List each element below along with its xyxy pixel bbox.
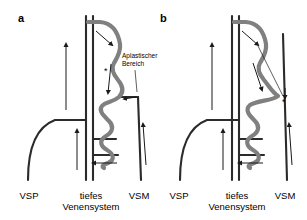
vsp-vessel-b — [180, 120, 238, 180]
callout-aplastischer-bereich: Aplastischer Bereich — [122, 52, 168, 67]
star-mark-b: * — [282, 98, 286, 107]
vsm-vessel-b — [283, 34, 287, 180]
arrow-reflux-down-a — [108, 64, 111, 93]
callout-leader-a — [135, 70, 137, 92]
venous-system-diagram: a b Aplastischer Bereich * * VSP tiefes … — [0, 0, 307, 220]
label-tiefes-venensystem-b: tiefes Venensystem — [204, 190, 270, 212]
panel-b-graphics — [180, 16, 292, 180]
label-tiefes-venensystem-a: tiefes Venensystem — [58, 190, 124, 212]
diagram-canvas — [0, 0, 307, 220]
vsm-vessel-a — [138, 97, 141, 180]
panel-label-a: a — [18, 13, 24, 24]
arrow-reflux-upper-b — [242, 31, 258, 45]
label-vsp-a: VSP — [6, 190, 52, 201]
label-vsm-b: VSM — [268, 190, 302, 201]
panel-a-graphics — [28, 16, 146, 180]
panel-label-b: b — [160, 13, 167, 24]
arrow-vsm-upflow-b — [289, 124, 292, 165]
label-vsp-b: VSP — [156, 190, 202, 201]
label-vsm-a: VSM — [122, 190, 156, 201]
arrow-reflux-upper-a — [96, 31, 112, 45]
star-mark-a: * — [104, 67, 108, 76]
arrow-vsm-upflow-a — [143, 124, 146, 165]
